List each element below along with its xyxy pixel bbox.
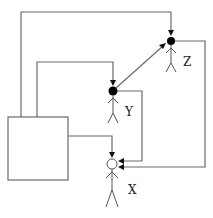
- stick-figure-z-icon: [166, 45, 176, 72]
- node-x-label: X: [128, 183, 137, 197]
- arrowhead-box-to-x: [109, 152, 115, 158]
- node-y-marker: [109, 87, 118, 96]
- edge-box-to-y: [37, 62, 113, 117]
- node-z-marker: [167, 37, 175, 45]
- stick-figure-y-icon: [108, 95, 118, 123]
- edge-box-to-z: [21, 12, 171, 117]
- arrowhead-box-to-y: [110, 80, 116, 86]
- edge-z-to-x: [123, 41, 205, 167]
- node-z: Z: [166, 37, 191, 72]
- node-x-marker: [107, 159, 117, 169]
- node-z-label: Z: [183, 55, 191, 69]
- arrowhead-z-to-x: [118, 164, 124, 170]
- diagram-canvas: Z Y X: [0, 0, 213, 218]
- arrowhead-box-to-z: [168, 30, 174, 36]
- node-y: Y: [108, 87, 134, 124]
- stick-figure-x-icon: [106, 169, 118, 207]
- edge-box-to-x: [68, 136, 112, 153]
- arrowhead-y-to-x: [118, 158, 124, 164]
- node-y-label: Y: [124, 105, 134, 119]
- edge-y-to-z: [116, 46, 163, 88]
- edge-y-to-x: [117, 91, 142, 161]
- source-box: [8, 117, 68, 180]
